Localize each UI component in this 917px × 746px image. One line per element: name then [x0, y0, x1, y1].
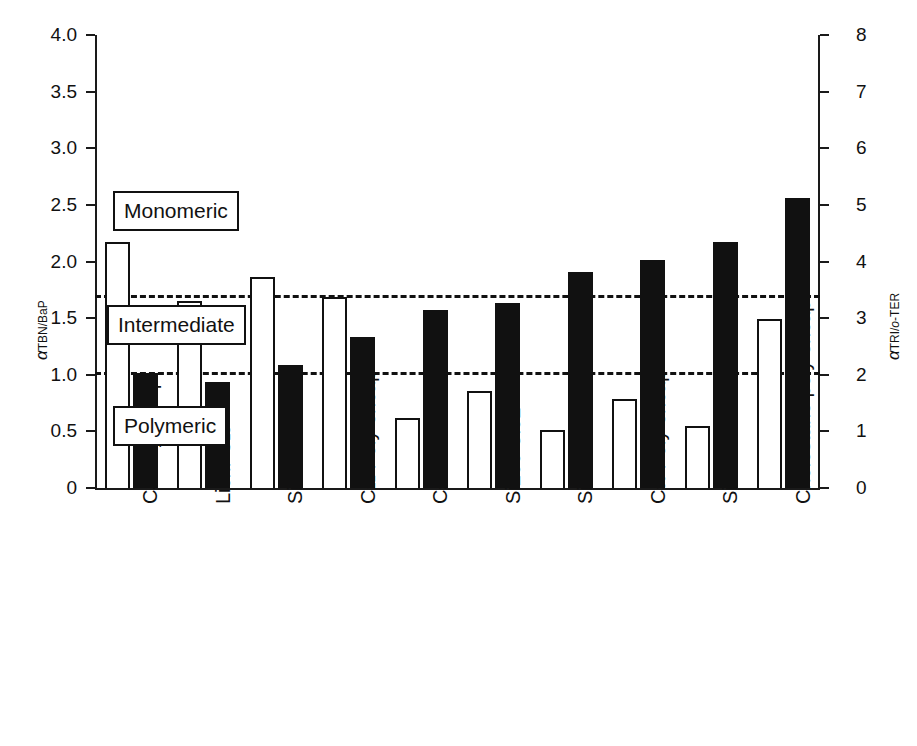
- bar-filled: [278, 365, 303, 488]
- right-tick-label: 3: [856, 308, 867, 327]
- right-tick-mark: [820, 204, 829, 206]
- left-tick-mark: [86, 374, 95, 376]
- bar-filled: [568, 272, 593, 488]
- region-label-intermediate: Intermediate: [107, 305, 246, 345]
- right-axis-line: [818, 35, 820, 490]
- left-axis-title-alpha: α: [32, 350, 51, 360]
- region-label-monomeric: Monomeric: [113, 191, 239, 231]
- right-tick-mark: [820, 261, 829, 263]
- bar-filled: [495, 303, 520, 488]
- right-tick-label: 1: [856, 421, 867, 440]
- bar-filled: [640, 260, 665, 488]
- region-label-polymeric: Polymeric: [113, 406, 227, 446]
- category-label-main: C: [429, 490, 451, 504]
- category-label-main: C: [357, 490, 379, 504]
- bar-filled: [423, 310, 448, 488]
- left-axis-title-sub: TBN/BaP: [36, 300, 50, 350]
- left-tick-label: 4.0: [0, 25, 77, 44]
- bar-open: [467, 391, 492, 488]
- bar-open: [685, 426, 710, 488]
- bar-filled: [350, 337, 375, 488]
- category-label-main: C: [139, 490, 161, 504]
- right-axis-title-sub-b: -TER: [888, 293, 902, 321]
- left-tick-label: 0: [0, 478, 77, 497]
- bar-open: [540, 430, 565, 488]
- bar-open: [322, 297, 347, 488]
- left-axis-line: [95, 35, 97, 490]
- threshold-line-monomeric-intermediate: [95, 295, 820, 298]
- left-tick-mark: [86, 261, 95, 263]
- right-axis-title: αTRI/o-TER: [884, 293, 904, 360]
- bar-open: [612, 399, 637, 488]
- left-tick-label: 3.0: [0, 138, 77, 157]
- bar-filled: [713, 242, 738, 488]
- right-tick-label: 8: [856, 25, 867, 44]
- right-tick-mark: [820, 91, 829, 93]
- right-tick-label: 2: [856, 365, 867, 384]
- right-tick-mark: [820, 147, 829, 149]
- bar-open: [757, 319, 782, 488]
- left-tick-label: 0.5: [0, 421, 77, 440]
- bottom-axis-line: [95, 488, 820, 490]
- right-tick-mark: [820, 430, 829, 432]
- left-axis-title: αTBN/BaP: [32, 300, 52, 360]
- bar-open: [105, 242, 130, 488]
- bar-filled: [785, 198, 810, 488]
- right-tick-label: 7: [856, 82, 867, 101]
- right-tick-mark: [820, 317, 829, 319]
- right-tick-mark: [820, 374, 829, 376]
- right-axis-title-sub-a: TRI/: [888, 328, 902, 351]
- plot-area: 4.03.53.02.52.01.51.00.50 876543210 Mono…: [95, 35, 820, 488]
- left-tick-mark: [86, 204, 95, 206]
- left-tick-label: 2.0: [0, 252, 77, 271]
- bar-open: [250, 277, 275, 488]
- right-axis-title-sub-ital: o: [888, 321, 902, 328]
- right-tick-mark: [820, 34, 829, 36]
- threshold-line-intermediate-polymeric: [95, 372, 820, 375]
- chart-page: 4.03.53.02.52.01.51.00.50 876543210 Mono…: [0, 0, 917, 746]
- right-tick-label: 5: [856, 195, 867, 214]
- left-tick-label: 1.0: [0, 365, 77, 384]
- left-tick-label: 3.5: [0, 82, 77, 101]
- left-tick-mark: [86, 147, 95, 149]
- right-tick-label: 6: [856, 138, 867, 157]
- right-tick-label: 0: [856, 478, 867, 497]
- left-tick-mark: [86, 34, 95, 36]
- bar-open: [395, 418, 420, 488]
- right-axis-title-alpha: α: [884, 350, 903, 360]
- left-tick-mark: [86, 317, 95, 319]
- category-label-main: C: [647, 490, 669, 504]
- left-tick-mark: [86, 487, 95, 489]
- left-tick-mark: [86, 430, 95, 432]
- left-tick-label: 2.5: [0, 195, 77, 214]
- left-tick-mark: [86, 91, 95, 93]
- right-tick-label: 4: [856, 252, 867, 271]
- right-tick-mark: [820, 487, 829, 489]
